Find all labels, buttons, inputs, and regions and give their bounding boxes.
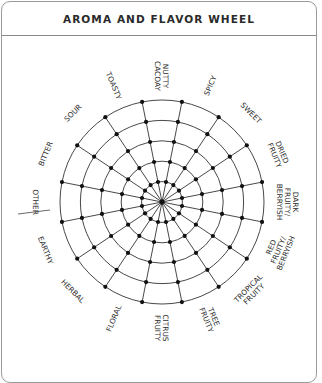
wheel-point[interactable] <box>149 183 153 187</box>
wheel-point[interactable] <box>148 140 152 144</box>
wheel-point[interactable] <box>75 143 79 147</box>
wheel-point[interactable] <box>180 204 184 208</box>
wheel-point[interactable] <box>172 260 176 264</box>
wheel-point[interactable] <box>240 184 244 188</box>
wheel-label-bitter: BITTER <box>37 140 55 167</box>
wheel-point[interactable] <box>109 234 113 238</box>
wheel-label-sweet: SWEET <box>239 101 264 126</box>
wheel-point[interactable] <box>194 177 198 181</box>
wheel-point[interactable] <box>140 100 144 104</box>
wheel-point[interactable] <box>75 257 79 261</box>
wheel-point[interactable] <box>194 223 198 227</box>
wheel-point[interactable] <box>120 192 124 196</box>
wheel-point[interactable] <box>140 300 144 304</box>
wheel-point[interactable] <box>100 212 104 216</box>
wheel-point[interactable] <box>220 188 224 192</box>
wheel-point[interactable] <box>245 257 249 261</box>
wheel-point[interactable] <box>177 211 181 215</box>
wheel-point[interactable] <box>137 234 141 238</box>
wheel-point[interactable] <box>228 155 232 159</box>
wheel-point[interactable] <box>172 140 176 144</box>
wheel-point[interactable] <box>180 300 184 304</box>
wheel-point[interactable] <box>194 251 198 255</box>
wheel-point[interactable] <box>217 285 221 289</box>
wheel-point[interactable] <box>217 115 221 119</box>
wheel-point[interactable] <box>168 240 172 244</box>
wheel-point[interactable] <box>149 217 153 221</box>
wheel-point[interactable] <box>144 120 148 124</box>
wheel-point[interactable] <box>164 220 168 224</box>
wheel-point[interactable] <box>92 245 96 249</box>
wheel-point[interactable] <box>156 220 160 224</box>
wheel-point[interactable] <box>80 184 84 188</box>
wheel-point[interactable] <box>164 180 168 184</box>
wheel-point[interactable] <box>205 268 209 272</box>
wheel-point[interactable] <box>240 216 244 220</box>
wheel-point[interactable] <box>126 251 130 255</box>
wheel-label-dark-fruity-berryish: DARKFRUITY/BERRYISH <box>275 184 300 220</box>
wheel-label-sour: SOUR <box>62 102 83 123</box>
wheel-point[interactable] <box>103 115 107 119</box>
wheel-point[interactable] <box>100 188 104 192</box>
wheel-point[interactable] <box>103 285 107 289</box>
wheel-label-citrus-fruity: CITRUSFRUITY <box>153 314 170 341</box>
wheel-point[interactable] <box>109 166 113 170</box>
wheel-point[interactable] <box>168 160 172 164</box>
wheel-point[interactable] <box>200 192 204 196</box>
wheel-point[interactable] <box>156 180 160 184</box>
wheel-label-toasty: TOASTY <box>104 70 124 102</box>
wheel-label-nutty-cacoay: NUTTYCACOAY <box>153 61 170 91</box>
wheel-point[interactable] <box>120 208 124 212</box>
wheel-point[interactable] <box>126 149 130 153</box>
wheel-point[interactable] <box>126 223 130 227</box>
wheel-point[interactable] <box>180 100 184 104</box>
wheel-label-floral: FLORAL <box>104 303 123 333</box>
wheel-point[interactable] <box>126 177 130 181</box>
wheel-label-tree-fruity: TREEFRUITY <box>197 303 223 334</box>
wheel-point[interactable] <box>80 216 84 220</box>
wheel-point[interactable] <box>140 204 144 208</box>
wheel-point[interactable] <box>228 245 232 249</box>
wheel-point[interactable] <box>200 208 204 212</box>
wheel-point[interactable] <box>148 260 152 264</box>
wheel-point[interactable] <box>140 196 144 200</box>
wheel-point[interactable] <box>152 240 156 244</box>
wheel-point[interactable] <box>92 155 96 159</box>
wheel-label-red-fruity-berryish: REDFRUITY/BERRYISH <box>260 229 297 272</box>
wheel-point[interactable] <box>171 217 175 221</box>
wheel-point[interactable] <box>183 234 187 238</box>
wheel-point[interactable] <box>171 183 175 187</box>
wheel-point[interactable] <box>115 268 119 272</box>
wheel-label-tropical-fruity: TROPICALFRUITY <box>232 272 271 311</box>
wheel-point[interactable] <box>115 132 119 136</box>
wheel-point[interactable] <box>176 120 180 124</box>
wheel-point[interactable] <box>211 166 215 170</box>
wheel-point[interactable] <box>260 220 264 224</box>
wheel-point[interactable] <box>245 143 249 147</box>
wheel-point[interactable] <box>152 160 156 164</box>
wheel-point[interactable] <box>177 189 181 193</box>
wheel-point[interactable] <box>60 180 64 184</box>
wheel-point[interactable] <box>60 220 64 224</box>
wheel-point[interactable] <box>144 280 148 284</box>
wheel-point[interactable] <box>220 212 224 216</box>
wheel-point[interactable] <box>183 166 187 170</box>
wheel-points <box>60 100 264 304</box>
wheel-label-herbal: HERBAL <box>59 278 87 306</box>
wheel-point[interactable] <box>205 132 209 136</box>
wheel-label-dried-fruity: DRIEDFRUITY <box>265 139 291 170</box>
wheel-point[interactable] <box>260 180 264 184</box>
wheel-label-spicy: SPICY <box>202 74 218 97</box>
wheel-point[interactable] <box>143 211 147 215</box>
wheel-point[interactable] <box>143 189 147 193</box>
wheel-point[interactable] <box>176 280 180 284</box>
wheel-label-earthy: EARTHY <box>36 235 56 266</box>
wheel-center <box>160 200 165 205</box>
wheel-point[interactable] <box>194 149 198 153</box>
wheel-point[interactable] <box>211 234 215 238</box>
wheel-point[interactable] <box>180 196 184 200</box>
wheel-point[interactable] <box>137 166 141 170</box>
